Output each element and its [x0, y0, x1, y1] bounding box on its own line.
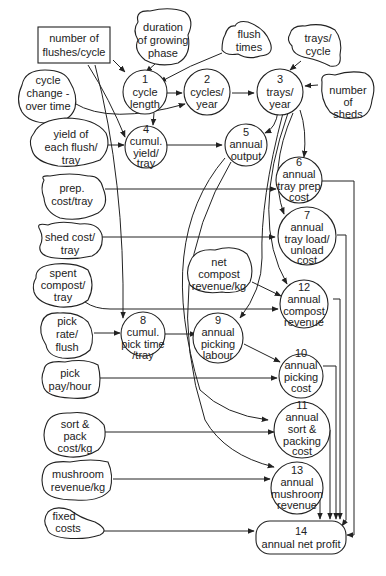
- label-line: cost: [297, 254, 317, 266]
- edge-5-13: [188, 162, 274, 467]
- label-line: cumul.: [127, 326, 159, 338]
- label-line: 12: [298, 281, 310, 293]
- input-spentcompost: spent compost/ tray: [33, 264, 92, 308]
- node-5-annual-output: 5 annual output: [225, 124, 267, 166]
- input-shedcost: shed cost/ tray: [39, 222, 103, 258]
- label-line: annual: [290, 221, 323, 233]
- label-line: annual: [287, 293, 320, 305]
- label-line: 8: [140, 314, 146, 326]
- input-fixed: fixed costs: [45, 508, 104, 539]
- label-line: tray: [61, 244, 80, 256]
- input-cyclechange: cycle change - over time: [19, 70, 76, 123]
- edge-9-10: [244, 344, 280, 362]
- label-line: rate/: [56, 328, 79, 340]
- label-line: cycle: [305, 45, 330, 57]
- label-line: year: [269, 98, 291, 110]
- influence-diagram: number of flushes/cycle duration of grow…: [0, 0, 386, 576]
- label-line: revenue: [284, 316, 324, 328]
- label-line: of growing: [138, 34, 189, 46]
- label-line: duration: [143, 21, 183, 33]
- label-line: tray: [62, 154, 81, 166]
- node-1-cycle-length: 1 cycle length: [123, 70, 167, 114]
- node-7-annual-tray-load-cost: 7 annual tray load/ unload cost: [278, 207, 336, 266]
- input-prepcost: prep. cost/tray: [42, 174, 106, 219]
- label-line: tray: [54, 291, 73, 303]
- edge-1-4: [153, 113, 154, 125]
- edge-sheds-3: [305, 85, 318, 86]
- label-line: flushes/cycle: [43, 46, 106, 58]
- label-line: sort &: [288, 423, 317, 435]
- input-yieldflush: yield of each flush/ tray: [30, 118, 108, 166]
- label-line: cumul.: [130, 135, 162, 147]
- label-line: 11: [296, 399, 307, 411]
- label-line: each flush/: [44, 141, 98, 153]
- label-line: tray: [137, 157, 156, 169]
- label-line: of: [343, 96, 353, 108]
- node-9-annual-picking-labour: 9 annual picking labour: [193, 313, 243, 363]
- input-flushes: number of flushes/cycle: [38, 27, 110, 63]
- label-line: pick: [57, 315, 77, 327]
- label-line: 9: [215, 314, 221, 326]
- label-line: annual: [284, 359, 317, 371]
- label-line: cycles/: [190, 86, 225, 98]
- label-line: number of: [49, 32, 99, 44]
- label-line: trays/: [305, 32, 333, 44]
- label-line: 3: [277, 73, 283, 85]
- label-line: shed cost/: [45, 231, 96, 243]
- label-line: annual: [285, 411, 318, 423]
- label-line: pack: [63, 430, 87, 442]
- label-line: pay/hour: [49, 380, 92, 392]
- input-pickpay: pick pay/hour: [42, 361, 100, 399]
- label-line: length: [130, 98, 160, 110]
- label-line: 2: [204, 73, 210, 85]
- edge-flushes-1: [113, 60, 125, 72]
- label-line: mushroom: [52, 468, 104, 480]
- label-line: cycle: [132, 86, 157, 98]
- node-6-annual-tray-prep-cost: 6 annual tray prep cost: [276, 156, 322, 203]
- label-line: change -: [27, 87, 70, 99]
- label-line: annual net profit: [262, 538, 341, 550]
- input-sheds: number of sheds: [322, 72, 374, 120]
- node-10-annual-picking-cost: 10 annual picking cost: [279, 347, 323, 398]
- label-line: annual: [201, 326, 234, 338]
- label-line: phase: [148, 47, 178, 59]
- label-line: cost: [291, 382, 311, 394]
- input-netcompost: net compost revenue/kg: [188, 248, 252, 293]
- input-flushtimes: flush times: [222, 22, 271, 58]
- label-line: net: [211, 256, 226, 268]
- label-line: cost/tray: [51, 195, 93, 207]
- node-8-cumul-pick-time: 8 cumul. pick time /tray: [121, 312, 165, 361]
- label-line: 1: [142, 73, 148, 85]
- node-3-trays-year: 3 trays/ year: [257, 69, 303, 115]
- label-line: sheds: [333, 108, 363, 120]
- label-line: fixed: [52, 510, 75, 522]
- label-line: number: [329, 84, 367, 96]
- label-line: 4: [143, 123, 149, 135]
- label-line: 10: [295, 347, 307, 359]
- label-line: annual: [229, 138, 262, 150]
- input-mushrev: mushroom revenue/kg: [42, 460, 112, 500]
- label-line: 7: [304, 209, 310, 221]
- label-line: spent: [50, 267, 77, 279]
- label-line: 6: [296, 156, 302, 168]
- label-line: times: [236, 41, 263, 53]
- nodes: 1 cycle length 2 cycles/ year 3 trays/ y…: [121, 69, 346, 554]
- label-line: output: [231, 150, 262, 162]
- label-line: 14: [295, 525, 307, 537]
- node-2-cycles-year: 2 cycles/ year: [184, 69, 230, 115]
- label-line: cost: [289, 191, 309, 203]
- label-line: costs: [55, 522, 81, 534]
- label-line: yield of: [54, 128, 90, 140]
- label-line: sort &: [61, 418, 90, 430]
- label-line: prep.: [59, 182, 84, 194]
- label-line: annual: [280, 476, 313, 488]
- node-11-annual-sort-packing-cost: 11 annual sort & packing cost: [274, 399, 330, 458]
- label-line: over time: [25, 100, 70, 112]
- label-line: cost: [292, 445, 312, 457]
- label-line: flush: [237, 28, 260, 40]
- node-13-annual-mushroom-revenue: 13 annual mushroom revenue: [271, 462, 323, 514]
- label-line: pick: [60, 367, 80, 379]
- label-line: cycle: [35, 74, 60, 86]
- edge-3-6: [300, 110, 305, 157]
- label-line: revenue: [277, 499, 317, 511]
